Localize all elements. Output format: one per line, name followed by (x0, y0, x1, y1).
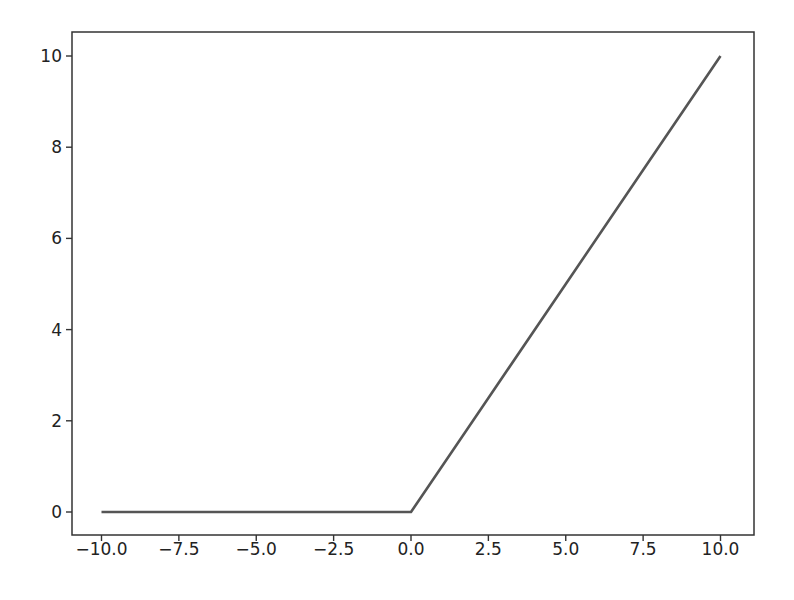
x-tick-label: 0.0 (397, 539, 424, 559)
y-tick-label: 8 (51, 137, 62, 157)
x-tick-label: −2.5 (313, 539, 354, 559)
y-tick-label: 0 (51, 502, 62, 522)
y-tick-label: 4 (51, 320, 62, 340)
plot-area (72, 32, 754, 535)
relu-line-chart: −10.0−7.5−5.0−2.50.02.55.07.510.0 024681… (0, 0, 794, 600)
x-tick-label: 5.0 (552, 539, 579, 559)
x-tick-label: 10.0 (702, 539, 740, 559)
x-tick-label: 7.5 (630, 539, 657, 559)
x-tick-label: −5.0 (236, 539, 277, 559)
y-tick-label: 2 (51, 411, 62, 431)
x-axis: −10.0−7.5−5.0−2.50.02.55.07.510.0 (75, 535, 739, 559)
y-axis: 0246810 (40, 46, 72, 522)
x-tick-label: −7.5 (158, 539, 199, 559)
y-tick-label: 10 (40, 46, 62, 66)
x-tick-label: −10.0 (75, 539, 127, 559)
x-tick-label: 2.5 (475, 539, 502, 559)
y-tick-label: 6 (51, 228, 62, 248)
